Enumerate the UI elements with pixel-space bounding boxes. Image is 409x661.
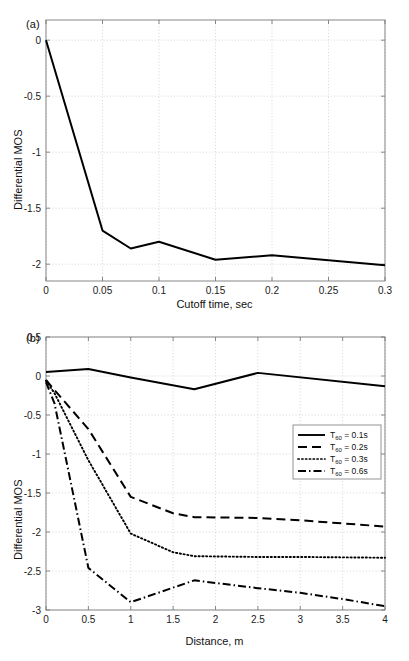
y-tick-label: -2: [32, 259, 41, 270]
panel-a-plot: 00.050.10.150.20.250.30-0.5-1-1.5-2: [0, 0, 409, 320]
y-tick-label: -3: [32, 605, 41, 616]
x-tick-label: 1: [128, 614, 134, 625]
x-tick-label: 3: [297, 614, 303, 625]
x-tick-label: 1.5: [166, 614, 180, 625]
y-tick-label: -1: [32, 147, 41, 158]
x-tick-label: 3.5: [336, 614, 350, 625]
y-tick-label: -2.5: [24, 566, 42, 577]
x-tick-label: 0.1: [152, 285, 166, 296]
figure-container: (a) Differential MOS Cutoff time, sec 00…: [0, 0, 409, 661]
x-tick-label: 0.15: [206, 285, 226, 296]
x-tick-label: 4: [382, 614, 388, 625]
x-tick-label: 0.5: [81, 614, 95, 625]
x-tick-label: 0: [43, 614, 49, 625]
y-tick-label: -1: [32, 449, 41, 460]
y-tick-label: 0: [35, 371, 41, 382]
y-tick-label: -0.5: [24, 91, 42, 102]
x-tick-label: 0.2: [265, 285, 279, 296]
x-tick-label: 0: [43, 285, 49, 296]
x-tick-label: 0.3: [378, 285, 392, 296]
y-tick-label: 0.5: [27, 332, 41, 343]
y-tick-label: -1.5: [24, 488, 42, 499]
y-tick-label: -0.5: [24, 410, 42, 421]
panel-b-plot: 00.511.522.533.540.50-0.5-1-1.5-2-2.5-3T…: [0, 320, 409, 661]
caption-fragment: [18, 653, 398, 661]
legend: T60 = 0.1sT60 = 0.2sT60 = 0.3sT60 = 0.6s: [293, 425, 381, 479]
x-tick-label: 0.25: [319, 285, 339, 296]
x-tick-label: 2.5: [251, 614, 265, 625]
x-tick-label: 0.05: [93, 285, 113, 296]
y-tick-label: -2: [32, 527, 41, 538]
panel-b: (b) Differential MOS Distance, m 00.511.…: [0, 320, 409, 661]
panel-a: (a) Differential MOS Cutoff time, sec 00…: [0, 0, 409, 320]
x-tick-label: 2: [213, 614, 219, 625]
y-tick-label: -1.5: [24, 203, 42, 214]
y-tick-label: 0: [35, 35, 41, 46]
